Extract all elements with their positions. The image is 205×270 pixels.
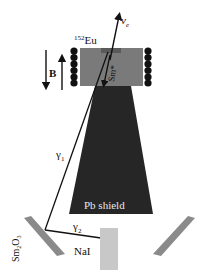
b-field-label: B bbox=[49, 67, 57, 79]
sm2o3-scatterer-right bbox=[153, 216, 195, 256]
magnet-coil-right bbox=[144, 47, 151, 86]
nai-label: NaI bbox=[74, 245, 91, 257]
neutrino-label: νe bbox=[121, 14, 129, 29]
sm2o3-scatterer-left bbox=[24, 216, 65, 256]
eu-source-label: 152Eu bbox=[74, 34, 97, 46]
gamma2-label: γ2 bbox=[72, 220, 82, 235]
neutrino-helicity-experiment-diagram: Pb shield B 152Eu νe Sm* γ1 Sm2O3 γ2 bbox=[0, 0, 205, 270]
sm2o3-label: Sm2O3 bbox=[10, 235, 22, 262]
pb-shield bbox=[69, 86, 153, 214]
nai-detector bbox=[100, 228, 118, 270]
pb-shield-label: Pb shield bbox=[84, 199, 125, 211]
gamma1-label: γ1 bbox=[55, 148, 65, 163]
magnet-coil-left bbox=[70, 47, 77, 86]
